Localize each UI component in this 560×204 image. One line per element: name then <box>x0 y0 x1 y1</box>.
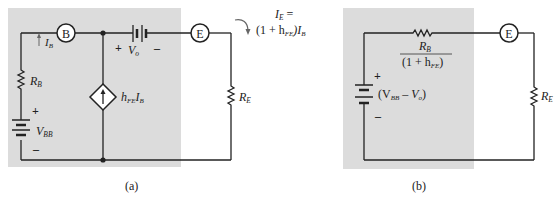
svg-text:E: E <box>196 27 203 41</box>
junction-dot <box>100 157 105 162</box>
ie-eq-line1: IE = <box>274 7 294 22</box>
vbb-plus: + <box>32 104 39 118</box>
vbb-minus: – <box>32 142 40 156</box>
eq-minus: – <box>374 109 382 123</box>
ie-eq-line2: (1 + hFE)IB <box>256 23 306 38</box>
svg-text:B: B <box>62 27 70 41</box>
ie-curved-arrow-icon <box>235 20 251 35</box>
eq-plus: + <box>374 69 381 83</box>
re-label: RE <box>238 90 251 105</box>
node-b: B <box>57 24 75 42</box>
circuit-figure: B E IB RB + – VBB + – Vo hFEIB RE <box>0 0 560 204</box>
vo-plus: + <box>115 41 122 55</box>
re-b-label: RE <box>540 89 553 104</box>
resistor-re-icon <box>228 84 234 107</box>
caption-b: (b) <box>412 179 426 193</box>
junction-dot <box>100 30 105 35</box>
node-e: E <box>191 24 209 42</box>
svg-text:E: E <box>505 27 512 41</box>
resistor-re-b-icon <box>531 85 537 108</box>
vo-minus: – <box>153 41 161 55</box>
node-e-b: E <box>500 24 518 42</box>
caption-a: (a) <box>125 179 138 193</box>
